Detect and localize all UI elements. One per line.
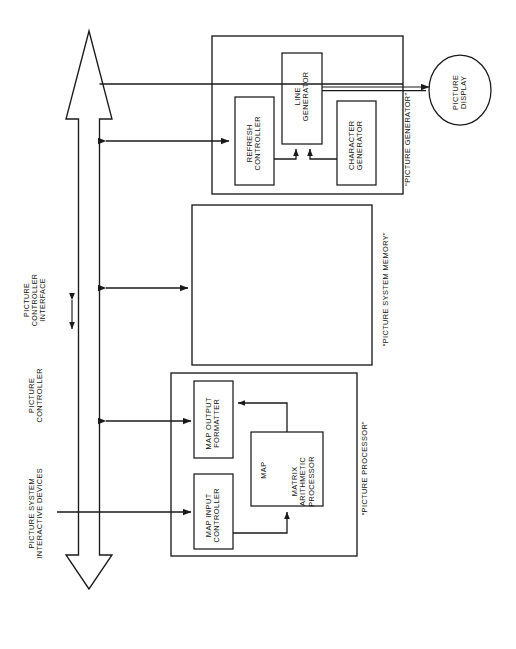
diagram-canvas: PICTURE SYSTEM INTERACTIVE DEVICES PICTU… bbox=[0, 0, 516, 649]
map-input-to-matrix-processor bbox=[233, 512, 287, 533]
label-matrix-arithmetic-processor: MATRIX ARITHMETIC PROCESSOR bbox=[291, 436, 316, 526]
label-refresh-controller: REFRESH CONTROLLER bbox=[246, 104, 263, 182]
matrix-processor-to-map-output bbox=[238, 403, 287, 432]
character-gen-to-line-generator bbox=[310, 149, 337, 159]
label-picture-controller: PICTURE CONTROLLER bbox=[28, 350, 45, 440]
label-map-abbrev: MAP bbox=[260, 449, 268, 491]
picture-system-memory-box bbox=[192, 205, 372, 365]
label-interactive-devices: PICTURE SYSTEM INTERACTIVE DEVICES bbox=[28, 453, 45, 573]
label-map-output-formatter: MAP OUTPUT FORMATTER bbox=[205, 388, 222, 458]
caption-picture-generator: “PICTURE GENERATOR” bbox=[404, 64, 412, 214]
main-bus-arrow bbox=[66, 31, 112, 589]
diagram-vector-layer bbox=[0, 0, 516, 649]
caption-picture-system-memory: “PICTURE SYSTEM MEMORY” bbox=[382, 209, 390, 369]
label-line-generator: LINE GENERATOR bbox=[294, 61, 311, 131]
label-map-input-controller: MAP INPUT CONTROLLER bbox=[205, 480, 222, 550]
refresh-to-line-generator bbox=[274, 149, 296, 159]
label-controller-interface: PICTURE CONTROLLER INTERFACE bbox=[24, 272, 48, 328]
caption-picture-processor: “PICTURE PROCESSOR” bbox=[361, 398, 369, 538]
label-picture-display: PICTURE DISPLAY bbox=[452, 58, 469, 126]
label-character-generator: CHARACTER GENERATOR bbox=[348, 107, 365, 183]
